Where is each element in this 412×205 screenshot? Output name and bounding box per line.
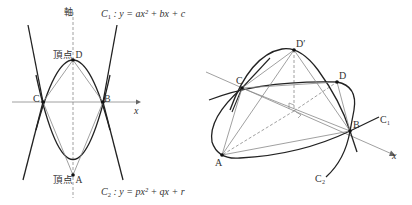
segment-CD	[43, 60, 73, 102]
vertex-D-label: 頂点 D	[53, 50, 82, 60]
point-C	[41, 100, 45, 104]
point-C	[240, 86, 244, 90]
segment-CA	[43, 102, 73, 175]
curve-c1-right-branch	[103, 25, 117, 102]
point-B-label: B	[353, 119, 360, 130]
segment-CDprime	[242, 50, 294, 88]
x-axis-label: x	[391, 150, 397, 161]
curve-c2-tangent	[242, 58, 270, 88]
axis-label: 軸	[64, 6, 73, 17]
curve-c2-equation: C2 : y = px² + qx + r	[101, 186, 185, 198]
curve-c1-left-branch	[28, 25, 43, 102]
point-B	[348, 129, 352, 133]
curve-c2-label: C₂	[315, 173, 325, 184]
x-axis-arrow-icon	[136, 100, 141, 105]
x-axis-label: x	[133, 105, 139, 116]
curve-c2-right-branch	[103, 102, 123, 180]
point-D-label: D	[339, 70, 346, 81]
right-figure: D′ D C B A x C₁ C₂	[206, 38, 397, 184]
segment-DB	[337, 82, 350, 131]
segment-DprimeB	[294, 50, 350, 131]
curve-c1-tail	[350, 131, 357, 152]
point-C-label: C	[236, 75, 243, 86]
diagram-canvas: 軸 x 頂点 D 頂点 A C B C1 : y = ax² + bx + c …	[0, 0, 412, 205]
point-B-label: B	[104, 93, 111, 104]
segment-BD	[73, 60, 103, 102]
segment-foot-D	[294, 82, 337, 111]
curve-c1-equation: C1 : y = ax² + bx + c	[101, 8, 186, 20]
point-A-label: A	[215, 157, 223, 168]
vertex-A-label: 頂点 A	[53, 175, 82, 185]
point-C-label: C	[33, 93, 40, 104]
curve-c2-left-branch	[23, 102, 43, 180]
segment-BA	[73, 102, 103, 175]
point-Dprime-label: D′	[296, 38, 305, 49]
curve-c1-label: C₁	[380, 114, 390, 125]
left-figure: 軸 x 頂点 D 頂点 A C B C1 : y = ax² + bx + c …	[12, 6, 186, 198]
